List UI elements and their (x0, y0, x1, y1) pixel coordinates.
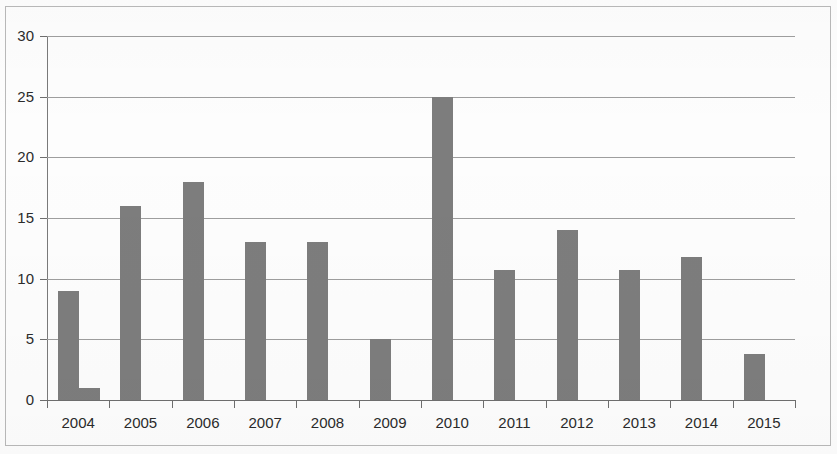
x-axis-tick-label: 2015 (733, 414, 795, 431)
x-axis-tick-label: 2008 (296, 414, 358, 431)
y-axis-tick (40, 157, 47, 158)
y-axis-tick (40, 218, 47, 219)
y-axis-tick-label: 5 (0, 331, 34, 346)
bar (245, 242, 266, 400)
y-axis-tick (40, 279, 47, 280)
y-axis-tick (40, 400, 47, 401)
bar (744, 354, 765, 400)
x-axis-tick (608, 401, 609, 408)
bar (557, 230, 578, 400)
y-axis-tick-label: 10 (0, 271, 34, 286)
bar (494, 270, 515, 400)
bar-chart: 051015202530 200420052006200720082009201… (0, 0, 837, 454)
x-axis-tick (483, 401, 484, 408)
y-axis-tick (40, 97, 47, 98)
x-axis-tick (109, 401, 110, 408)
x-axis-tick-label: 2004 (47, 414, 109, 431)
y-axis-tick (40, 339, 47, 340)
y-axis-tick-label: 0 (0, 392, 34, 407)
x-axis-tick-label: 2010 (421, 414, 483, 431)
x-axis-tick (234, 401, 235, 408)
x-axis-tick-label: 2009 (359, 414, 421, 431)
y-axis-tick-label: 20 (0, 149, 34, 164)
x-axis-tick (670, 401, 671, 408)
y-axis-tick-label: 15 (0, 210, 34, 225)
x-axis-tick (359, 401, 360, 408)
x-axis-tick-label: 2013 (608, 414, 670, 431)
x-axis-tick (421, 401, 422, 408)
bar (120, 206, 141, 400)
bar (619, 270, 640, 400)
bar (183, 182, 204, 400)
bar (58, 291, 79, 400)
y-axis-tick-label: 25 (0, 89, 34, 104)
bar (681, 257, 702, 400)
bar (432, 97, 453, 400)
plot-area (47, 36, 795, 400)
x-axis-tick-label: 2012 (546, 414, 608, 431)
x-axis-tick (172, 401, 173, 408)
y-axis-tick (40, 36, 47, 37)
x-axis-tick (546, 401, 547, 408)
bar (79, 388, 100, 400)
x-axis-tick-label: 2005 (109, 414, 171, 431)
x-axis-tick (733, 401, 734, 408)
x-axis-tick-label: 2011 (483, 414, 545, 431)
x-axis-tick-label: 2007 (234, 414, 296, 431)
bar (370, 339, 391, 400)
y-axis-tick-label: 30 (0, 28, 34, 43)
bar (307, 242, 328, 400)
x-axis-tick (296, 401, 297, 408)
x-axis-tick (47, 401, 48, 408)
x-axis-tick-label: 2006 (172, 414, 234, 431)
x-axis-tick-label: 2014 (670, 414, 732, 431)
x-axis-tick (795, 401, 796, 408)
